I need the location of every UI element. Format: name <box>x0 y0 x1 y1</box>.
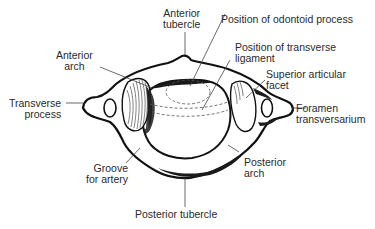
label-position-transverse-ligament: Position of transverse ligament <box>235 42 336 64</box>
right-foramen-transversarium <box>262 99 273 117</box>
label-line: Posterior tubercle <box>135 209 217 220</box>
label-line: arch <box>56 61 93 72</box>
label-line: Position of odontoid process <box>221 14 353 25</box>
label-line: tubercle <box>163 19 200 30</box>
label-line: ligament <box>235 53 336 64</box>
label-line: arch <box>244 168 286 179</box>
label-groove-for-artery: Groove for artery <box>86 163 128 185</box>
label-line: for artery <box>86 174 128 185</box>
label-posterior-arch: Posterior arch <box>244 157 286 179</box>
label-superior-articular-facet: Superior articular facet <box>266 69 346 91</box>
vertebral-foramen-outline <box>142 80 230 159</box>
label-anterior-arch: Anterior arch <box>56 50 93 72</box>
left-foramen-transversarium <box>104 99 116 117</box>
label-line: process <box>9 109 61 120</box>
label-posterior-tubercle: Posterior tubercle <box>135 209 217 220</box>
label-transverse-process: Transverse process <box>9 98 61 120</box>
label-line: transversarium <box>296 114 365 125</box>
label-anterior-tubercle: Anterior tubercle <box>163 8 200 30</box>
label-position-odontoid: Position of odontoid process <box>221 14 353 25</box>
label-line: facet <box>266 80 346 91</box>
label-foramen-transversarium: Foramen transversarium <box>296 103 365 125</box>
